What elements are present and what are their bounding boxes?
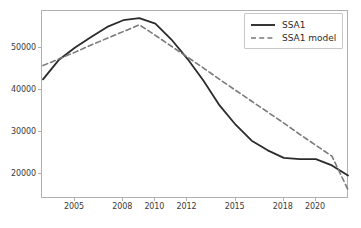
series-line-ssa1-model [43, 25, 348, 190]
y-tick-mark [38, 173, 41, 174]
legend-label-ssa1-model: SSA1 model [282, 33, 336, 43]
y-tick-mark [38, 89, 41, 90]
legend-label-ssa1: SSA1 [282, 20, 305, 30]
x-tick-label: 2012 [176, 202, 196, 211]
x-tick-mark [186, 198, 187, 201]
legend-item-ssa1-model: SSA1 model [250, 31, 336, 44]
y-tick-label: 20000 [11, 168, 36, 177]
x-tick-mark [122, 198, 123, 201]
x-tick-label: 2005 [64, 202, 84, 211]
x-tick-mark [315, 198, 316, 201]
chart-legend: SSA1 SSA1 model [244, 13, 343, 49]
y-tick-label: 30000 [11, 126, 36, 135]
y-tick-label: 50000 [11, 42, 36, 51]
chart-figure: 20000300004000050000 SSA1 SSA1 model 200… [0, 0, 361, 228]
legend-line-swatch-solid [250, 20, 276, 30]
y-tick-mark [38, 47, 41, 48]
x-tick-label: 2010 [144, 202, 164, 211]
y-tick-mark [38, 131, 41, 132]
legend-line-swatch-dashed [250, 33, 276, 43]
x-tick-label: 2015 [225, 202, 245, 211]
x-tick-label: 2018 [273, 202, 293, 211]
y-tick-label: 40000 [11, 84, 36, 93]
x-tick-mark [235, 198, 236, 201]
y-axis-tick-labels: 20000300004000050000 [0, 0, 36, 228]
x-tick-mark [74, 198, 75, 201]
x-tick-mark [283, 198, 284, 201]
x-tick-mark [154, 198, 155, 201]
x-tick-label: 2008 [112, 202, 132, 211]
x-tick-label: 2020 [305, 202, 325, 211]
legend-item-ssa1: SSA1 [250, 18, 336, 31]
